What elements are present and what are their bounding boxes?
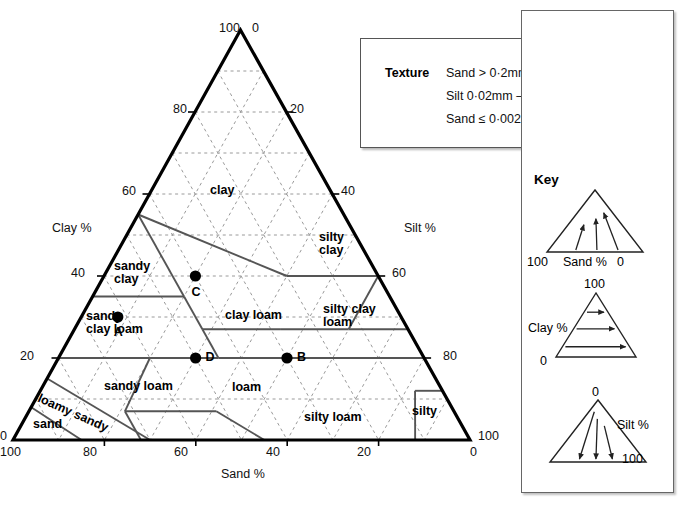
key-silt-top-value: 0 — [592, 385, 599, 399]
key-silt-axis-label: Silt % — [617, 418, 649, 432]
key-clay-bottom-value: 0 — [540, 354, 547, 368]
key-sand-right-value: 0 — [617, 255, 624, 269]
key-silt-bottom-value: 100 — [622, 452, 643, 466]
key-sand-axis-label: Sand % — [563, 255, 607, 269]
key-clay-triangle — [556, 293, 636, 357]
key-clay-axis-label: Clay % — [528, 321, 568, 335]
key-sand-triangle — [547, 190, 643, 252]
key-clay-top-value: 100 — [584, 277, 605, 291]
key-sand-left-value: 100 — [527, 255, 548, 269]
soil-texture-diagram: 100 0 0 100 100 0 20 40 60 80 20 40 60 8… — [0, 0, 681, 511]
